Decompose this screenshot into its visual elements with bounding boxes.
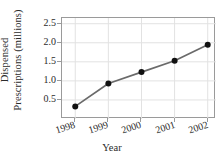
y-tick-mark [57, 23, 61, 24]
x-tick-mark [107, 118, 108, 122]
y-tick-mark [57, 61, 61, 62]
y-tick-label: 1.5 [30, 56, 56, 66]
y-tick-label: 0.5 [30, 94, 56, 104]
data-point-marker [138, 69, 144, 75]
data-point-marker [205, 42, 211, 48]
y-axis-label-line-2: Prescriptions (millions) [12, 0, 25, 120]
x-axis-label: Year [0, 142, 224, 153]
series-line [75, 45, 207, 107]
x-tick-label: 1998 [54, 119, 76, 136]
data-point-marker [105, 81, 111, 87]
y-tick-label: 2.5 [30, 18, 56, 28]
x-tick-mark [140, 118, 141, 122]
y-tick-mark [57, 99, 61, 100]
data-point-marker [72, 103, 78, 109]
chart-figure: Dispensed Prescriptions (millions) 0.51.… [0, 0, 224, 160]
y-tick-label: 2.0 [30, 37, 56, 47]
x-tick-mark [74, 118, 75, 122]
data-series [62, 18, 214, 117]
y-tick-label: 1.0 [30, 75, 56, 85]
y-tick-mark [57, 42, 61, 43]
data-point-marker [172, 58, 178, 64]
plot-area [61, 17, 215, 118]
y-axis-label-line-1: Dispensed [0, 0, 12, 120]
y-axis-ticks: 0.51.01.52.02.5 [28, 0, 56, 160]
y-tick-mark [57, 80, 61, 81]
